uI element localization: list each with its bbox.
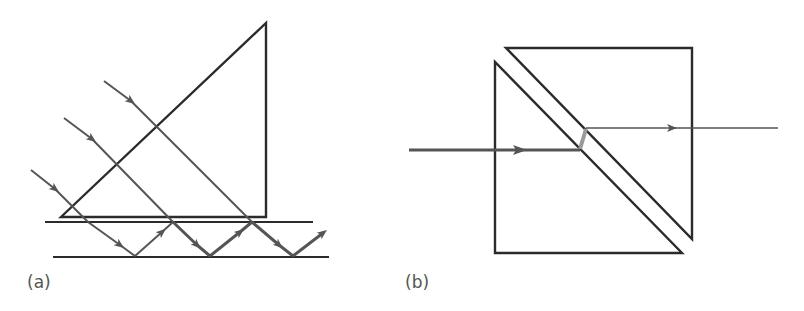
ray-1 [104,81,252,222]
panel-label-b: (b) [405,274,429,291]
prism-b-upper [506,48,692,239]
panel-a [31,23,329,257]
panel-label-a: (a) [27,274,51,291]
ray-2 [64,118,173,222]
figure-svg [0,0,804,311]
gap-crossing [580,129,586,149]
prism-a [61,23,266,217]
optics-figure: (a) (b) [0,0,804,311]
prism-b-lower [495,62,682,253]
panel-b [409,48,778,253]
zigzag-ray [88,222,323,256]
ray-3 [31,170,88,222]
